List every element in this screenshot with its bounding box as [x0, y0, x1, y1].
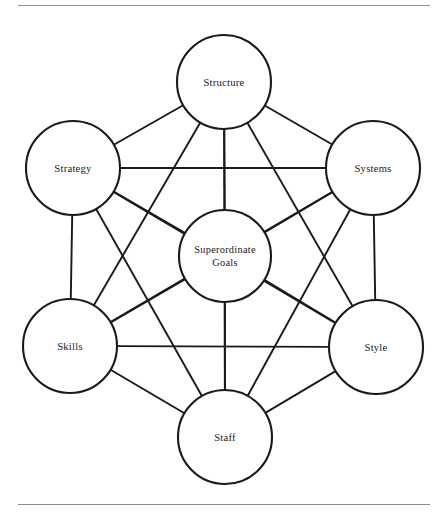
connector-skills-to-style: [117, 346, 329, 347]
connector-systems-to-style: [374, 215, 375, 300]
seven-s-diagram: StructureStrategySystemsSuperordinateGoa…: [0, 0, 448, 513]
node-label-line: Skills: [57, 341, 83, 352]
connector-strategy-to-skills: [71, 215, 72, 299]
node-label-skills: Skills: [57, 341, 83, 352]
node-label-strategy: Strategy: [54, 163, 92, 174]
connector-style-to-staff: [265, 371, 335, 413]
node-label-line: Strategy: [54, 163, 92, 174]
connector-skills-to-staff: [111, 370, 185, 413]
node-label-line: Staff: [214, 432, 236, 443]
node-label-line: Systems: [354, 163, 391, 174]
node-label-line: Structure: [203, 77, 244, 88]
connector-structure-to-strategy: [114, 105, 183, 144]
node-labels-group: StructureStrategySystemsSuperordinateGoa…: [54, 77, 391, 443]
connector-superordinate-goals-to-style: [264, 280, 335, 323]
connector-superordinate-goals-to-skills: [111, 279, 186, 322]
node-circle-superordinate-goals[interactable]: [179, 210, 271, 302]
node-label-staff: Staff: [214, 432, 236, 443]
node-label-line: Style: [364, 342, 387, 353]
connector-structure-to-systems: [265, 105, 333, 144]
node-label-line: Superordinate: [194, 244, 256, 255]
node-label-structure: Structure: [203, 77, 244, 88]
bottom-divider: [18, 504, 430, 505]
node-label-line: Goals: [212, 257, 238, 268]
node-label-systems: Systems: [354, 163, 391, 174]
node-label-style: Style: [364, 342, 387, 353]
figure-page: StructureStrategySystemsSuperordinateGoa…: [0, 0, 448, 513]
